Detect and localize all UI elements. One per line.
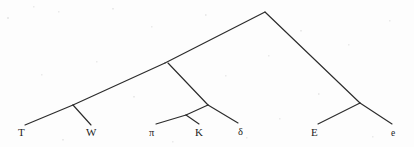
edge-tw-to-w [73, 105, 91, 125]
edge-left-to-delta [168, 63, 208, 105]
edges-group [25, 12, 392, 125]
edge-left-to-t [73, 63, 165, 105]
edge-delta-tip [208, 105, 238, 123]
edge-pik-to-k [186, 115, 199, 124]
edge-tw-to-t [25, 105, 73, 125]
leaf-pi: π [149, 128, 154, 139]
tree-branches-layer [0, 0, 414, 147]
edge-pik-to-pi [156, 115, 186, 124]
leaf-k: K [195, 127, 203, 138]
leaf-e-cap: E [311, 127, 318, 138]
leaf-w: W [86, 127, 96, 138]
edge-root-left [165, 12, 265, 63]
edge-ee-to-elow [360, 103, 392, 124]
tree-diagram: TWπKδEe [0, 0, 414, 147]
leaf-t: T [18, 127, 25, 138]
edge-delta-to-pik [186, 105, 208, 115]
edge-root-right [265, 12, 360, 103]
leaf-e-low: e [391, 129, 395, 139]
edge-ee-to-ecap [318, 103, 360, 124]
leaf-delta: δ [238, 127, 243, 138]
